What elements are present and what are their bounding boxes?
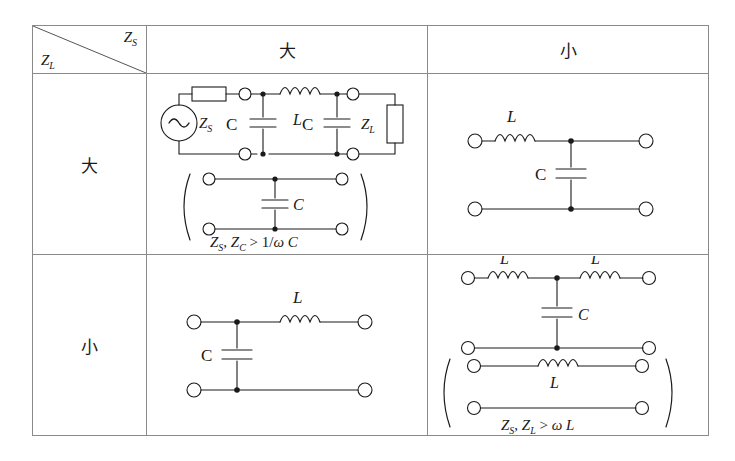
terminal-ring [358, 383, 372, 397]
cap-right-label: C [302, 115, 313, 134]
terminal-ring [347, 88, 359, 100]
column-header-large-label: 大 [279, 41, 296, 61]
terminal-ring [636, 360, 649, 373]
source-impedance-label: ZS [199, 115, 212, 134]
column-header-small: 小 [428, 26, 709, 74]
terminal-ring [187, 383, 201, 397]
l-section-series-L-shunt-C-diagram: L C [443, 99, 693, 229]
table-row: 大 [33, 74, 709, 255]
source-resistor-icon [192, 87, 226, 101]
terminal-ring [239, 88, 251, 100]
axis-label-source-impedance: ZS [124, 29, 137, 48]
terminal-ring [203, 173, 215, 185]
cell-large-large-wrap: ZS C L C ZL [147, 74, 427, 254]
cap-label: C [535, 165, 546, 184]
terminal-ring [636, 402, 649, 415]
terminal-ring [639, 202, 653, 216]
terminal-ring [468, 360, 481, 373]
terminal-ring [468, 402, 481, 415]
inductor-icon [488, 272, 528, 279]
right-paren [666, 359, 672, 427]
table-row: 小 [33, 255, 709, 436]
terminal-ring [462, 272, 475, 285]
t-network-diagram: L L C [428, 256, 708, 434]
inductor-left-label: L [499, 256, 509, 267]
cell-small-small: L L C [428, 255, 709, 436]
terminal-ring [639, 134, 653, 148]
cell-large-large: ZS C L C ZL [147, 74, 428, 255]
inductor-icon [538, 360, 578, 367]
inductor-icon [495, 135, 535, 142]
cap-left-label: C [226, 115, 237, 134]
inductor-label: L [292, 288, 302, 307]
impedance-matching-table: ZS ZL 大 小 大 [32, 25, 709, 436]
axis-label-load-impedance: ZL [41, 52, 55, 71]
cell-large-small-wrap: L C [428, 74, 708, 254]
inductor-icon [280, 88, 320, 95]
load-resistor-icon [387, 105, 403, 143]
terminal-ring [468, 202, 482, 216]
left-paren [184, 174, 190, 240]
terminal-ring [358, 315, 372, 329]
terminal-ring [462, 342, 475, 355]
cap-label: C [578, 306, 589, 323]
inductor-label: L [506, 107, 516, 126]
terminal-ring [347, 148, 359, 160]
cell-small-large-wrap: L C [147, 255, 427, 435]
terminal-ring [336, 223, 348, 235]
alternate-cap-label: C [293, 196, 304, 213]
cell-large-small: L C [428, 74, 709, 255]
terminal-ring [336, 173, 348, 185]
row-header-large: 大 [33, 74, 147, 255]
inductor-icon [580, 272, 620, 279]
l-section-shunt-C-series-L-diagram: L C [162, 280, 412, 410]
column-header-large: 大 [147, 26, 428, 74]
inductor-right-label: L [590, 256, 600, 267]
alternate-condition-label: ZS, ZC > 1/ω C [210, 234, 299, 253]
column-header-small-label: 小 [560, 41, 577, 61]
row-header-small-label: 小 [81, 337, 98, 357]
load-impedance-label: ZL [361, 116, 375, 135]
terminal-ring [468, 134, 482, 148]
inductor-icon [280, 316, 320, 323]
table-header-row: ZS ZL 大 小 [33, 26, 709, 74]
terminal-ring [187, 315, 201, 329]
inductor-label: L [292, 111, 302, 128]
right-paren [361, 174, 367, 240]
terminal-ring [239, 148, 251, 160]
terminal-ring [643, 272, 656, 285]
cell-small-small-wrap: L L C [428, 255, 708, 435]
cap-label: C [201, 346, 212, 365]
cell-small-large: L C [147, 255, 428, 436]
left-paren [444, 359, 450, 427]
alternate-condition-label: ZS, ZL > ω L [501, 417, 574, 434]
row-header-large-label: 大 [81, 156, 98, 176]
row-header-small: 小 [33, 255, 147, 436]
pi-network-diagram: ZS C L C ZL [147, 75, 427, 253]
terminal-ring [643, 342, 656, 355]
corner-axis-cell: ZS ZL [33, 26, 147, 74]
alternate-inductor-label: L [549, 374, 559, 391]
corner-inner: ZS ZL [33, 26, 146, 73]
